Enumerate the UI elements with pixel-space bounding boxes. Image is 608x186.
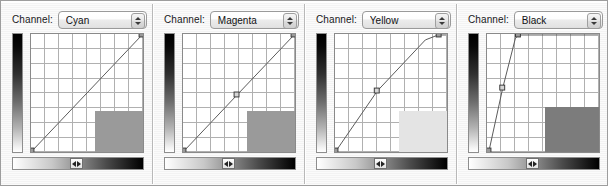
curve-handle-end-black <box>515 33 520 37</box>
curve-plot-black[interactable] <box>486 33 600 153</box>
arrow-down-icon <box>439 22 445 25</box>
channel-label-magenta: Channel: <box>164 10 205 29</box>
vertical-tone-ramp-yellow <box>316 33 327 153</box>
arrow-left-icon <box>376 161 380 167</box>
curves-panel-window: Channel: Cyan <box>0 0 608 186</box>
channel-label-yellow: Channel: <box>316 10 357 29</box>
curve-line-cyan <box>32 35 142 151</box>
stepper-arrows-icon[interactable] <box>435 13 449 29</box>
arrow-up-icon <box>439 17 445 20</box>
curve-plot-cyan[interactable] <box>30 33 144 153</box>
stepper-arrows-icon[interactable] <box>131 13 145 29</box>
curve-graph-block-yellow <box>316 33 448 153</box>
curve-line-yellow <box>336 35 446 151</box>
arrow-right-icon <box>533 161 537 167</box>
double-arrow-slider-icon-black[interactable] <box>526 158 539 169</box>
arrow-right-icon <box>77 161 81 167</box>
curve-graph-block-black <box>468 33 600 153</box>
arrow-right-icon <box>229 161 233 167</box>
channel-popup-value-cyan: Cyan <box>66 12 127 29</box>
arrow-up-icon <box>591 17 597 20</box>
horizontal-ramp-block-black <box>468 157 600 170</box>
arrow-down-icon <box>135 22 141 25</box>
stepper-arrows-icon[interactable] <box>587 13 601 29</box>
curve-handle-start-magenta <box>182 148 186 153</box>
channel-selector-row-black: Channel: Black <box>468 10 603 29</box>
curve-handle-mid-yellow <box>374 88 379 93</box>
curve-handle-start-black <box>486 148 491 153</box>
curve-svg-yellow <box>335 34 447 152</box>
curve-plot-yellow[interactable] <box>334 33 448 153</box>
channel-panel-black: Channel: Black <box>457 1 608 186</box>
stepper-arrows-icon[interactable] <box>283 13 297 29</box>
curve-graph-block-cyan <box>12 33 144 153</box>
curve-handle-end-yellow <box>436 33 441 37</box>
curve-handle-start-yellow <box>334 148 338 153</box>
channel-panel-magenta: Channel: Magenta <box>153 1 305 186</box>
double-arrow-slider-icon-magenta[interactable] <box>222 158 235 169</box>
vertical-tone-ramp-cyan <box>12 33 23 153</box>
arrow-up-icon <box>287 17 293 20</box>
channel-label-cyan: Channel: <box>12 10 53 29</box>
channel-label-black: Channel: <box>468 10 509 29</box>
curve-handle-end-cyan <box>139 33 144 37</box>
double-arrow-slider-icon-cyan[interactable] <box>70 158 83 169</box>
arrow-right-icon <box>381 161 385 167</box>
arrow-up-icon <box>135 17 141 20</box>
channel-popup-value-yellow: Yellow <box>370 12 431 29</box>
channel-panel-yellow: Channel: Yellow <box>305 1 457 186</box>
channel-selector-row-yellow: Channel: Yellow <box>316 10 451 29</box>
channel-popup-button-yellow[interactable]: Yellow <box>362 11 451 29</box>
curve-line-black <box>489 35 598 151</box>
curve-handle-mid-black <box>500 85 505 90</box>
double-arrow-slider-icon-yellow[interactable] <box>374 158 387 169</box>
arrow-left-icon <box>528 161 532 167</box>
horizontal-ramp-block-cyan <box>12 157 144 170</box>
curve-svg-cyan <box>31 34 143 152</box>
vertical-tone-ramp-magenta <box>164 33 175 153</box>
channel-panel-cyan: Channel: Cyan <box>1 1 153 186</box>
arrow-down-icon <box>591 22 597 25</box>
curve-handle-start-cyan <box>30 148 34 153</box>
channel-popup-value-magenta: Magenta <box>218 12 279 29</box>
curve-plot-magenta[interactable] <box>182 33 296 153</box>
arrow-down-icon <box>287 22 293 25</box>
channel-popup-button-magenta[interactable]: Magenta <box>210 11 299 29</box>
curve-handle-mid-magenta <box>234 92 239 97</box>
arrow-left-icon <box>224 161 228 167</box>
channel-popup-value-black: Black <box>522 12 583 29</box>
channel-popup-button-cyan[interactable]: Cyan <box>58 11 147 29</box>
channel-selector-row-magenta: Channel: Magenta <box>164 10 299 29</box>
horizontal-ramp-block-yellow <box>316 157 448 170</box>
channel-popup-button-black[interactable]: Black <box>514 11 603 29</box>
curve-graph-block-magenta <box>164 33 296 153</box>
channel-selector-row-cyan: Channel: Cyan <box>12 10 147 29</box>
curve-svg-magenta <box>183 34 295 152</box>
horizontal-ramp-block-magenta <box>164 157 296 170</box>
channel-panel-row: Channel: Cyan <box>1 1 608 186</box>
curve-handle-end-magenta <box>291 33 296 37</box>
vertical-tone-ramp-black <box>468 33 479 153</box>
arrow-left-icon <box>72 161 76 167</box>
curve-svg-black <box>487 34 599 152</box>
